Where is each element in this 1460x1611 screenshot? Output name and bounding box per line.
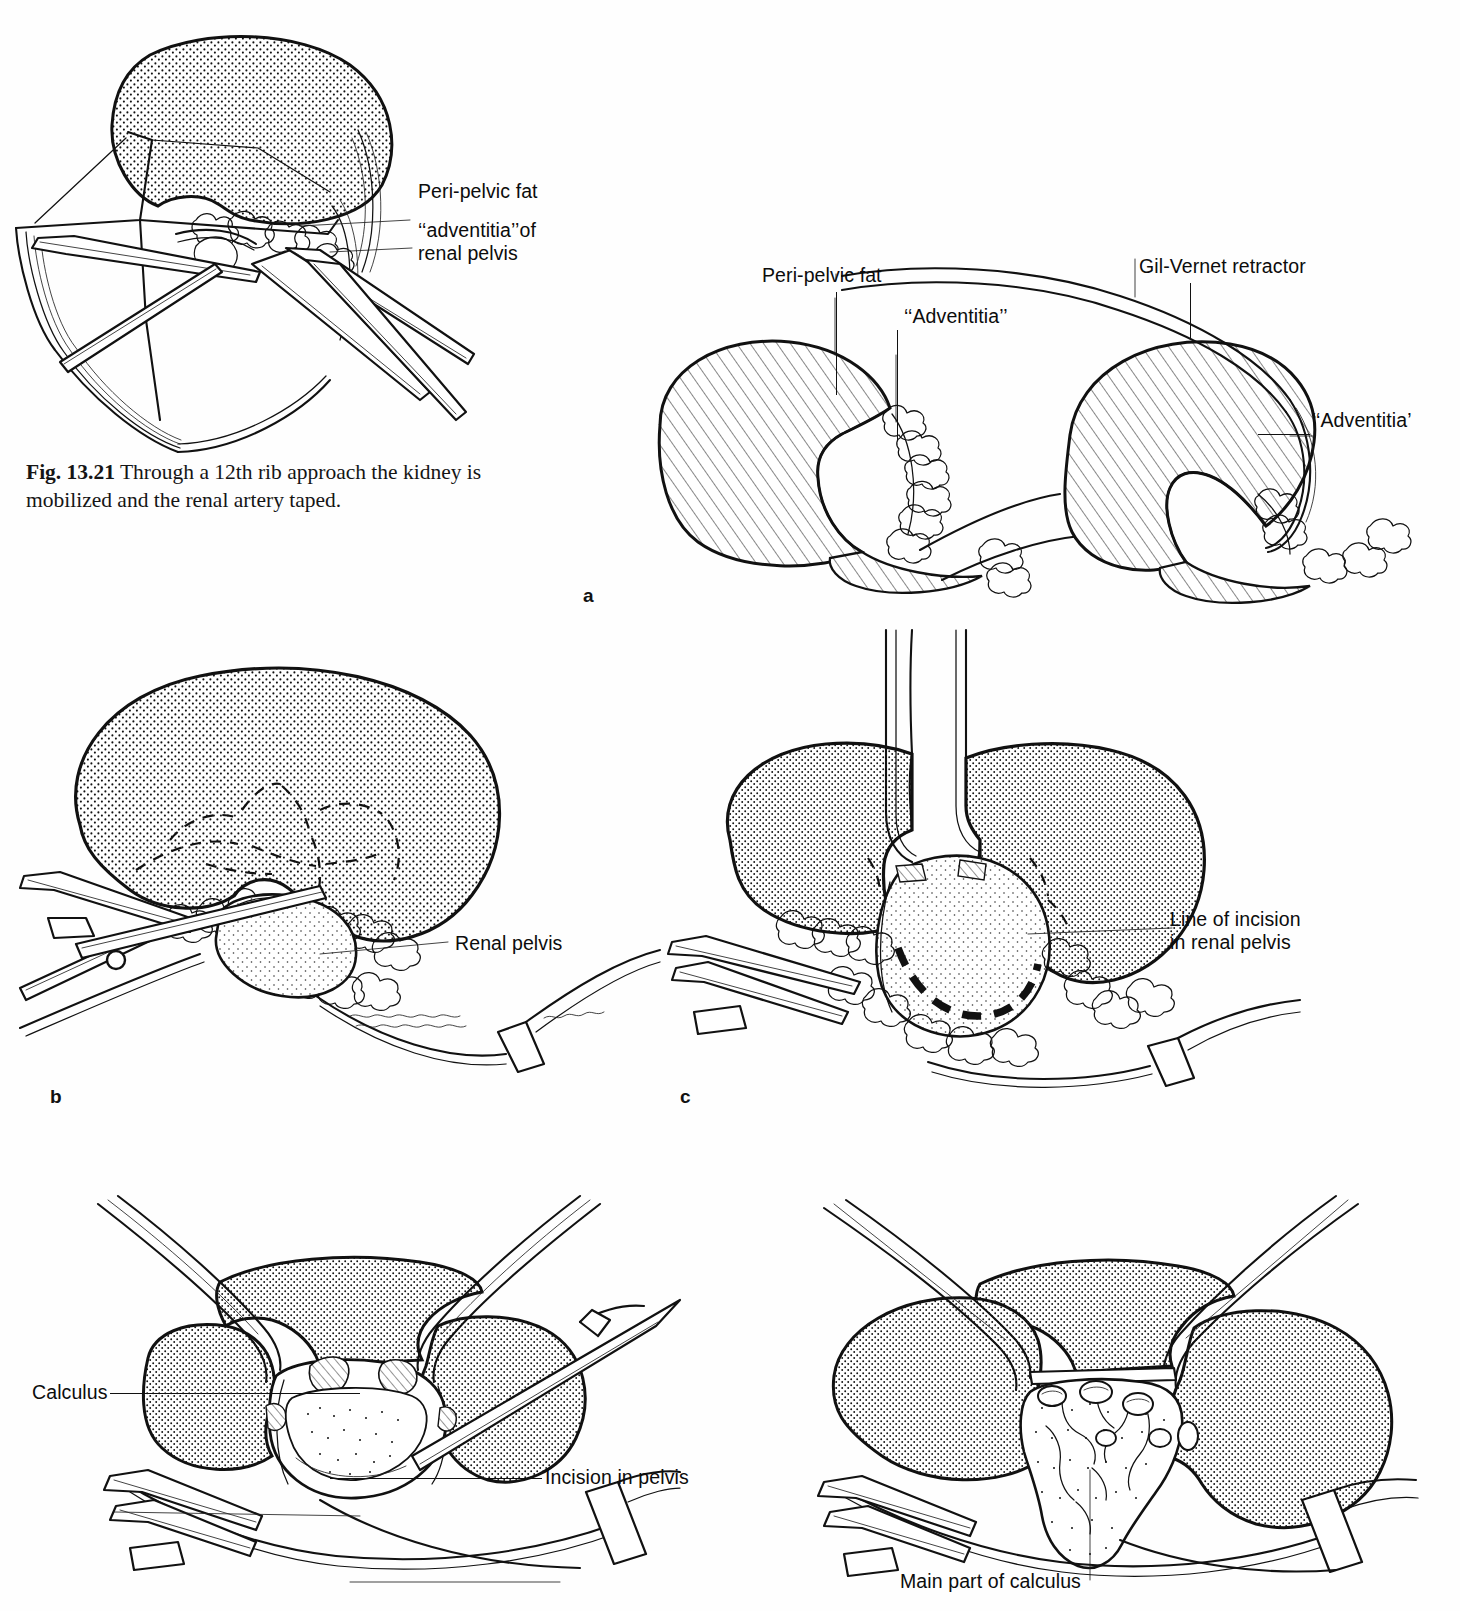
panel-letter-a: a (583, 585, 594, 607)
label-peri-pelvic-fat-a: Peri-pelvic fat (762, 264, 882, 287)
label-peri-pelvic-fat-fig1: Peri-pelvic fat (418, 180, 538, 203)
figure-caption: Fig. 13.21 Through a 12th rib approach t… (26, 458, 571, 514)
leader-adventitia-left-a (897, 330, 898, 440)
label-renal-pelvis-b: Renal pelvis (455, 932, 562, 955)
label-calculus-d: Calculus (32, 1381, 108, 1404)
panel-letter-c: c (680, 1086, 691, 1108)
label-adventitia-left-a: ‘‘Adventitia’’ (904, 305, 1008, 328)
panel-b-illustration (20, 650, 660, 1080)
leader-gil-vernet-a (1190, 283, 1191, 338)
leader-calculus-d (110, 1393, 360, 1394)
label-adventitia-of-renal-pelvis-fig1: ‘‘adventitia’’of renal pelvis (418, 219, 536, 265)
panel-d-illustration (20, 1170, 680, 1611)
illustration-page: Peri-pelvic fat ‘‘adventitia’’of renal p… (0, 0, 1460, 1611)
leader-incision-in-pelvis-d (330, 1478, 542, 1479)
label-line-of-incision-in-renal-pelvis-c: Line of incision in renal pelvis (1170, 908, 1301, 954)
leader-peri-pelvic-fat-a (836, 292, 837, 395)
label-gil-vernet-retractor-a: Gil-Vernet retractor (1139, 255, 1306, 278)
label-adventitia-right-a: ‘‘Adventitia’ (1312, 409, 1412, 432)
label-incision-in-pelvis-d: Incision in pelvis (545, 1466, 689, 1489)
leader-adventitia-right-a (1258, 434, 1310, 435)
figure-number: Fig. 13.21 (26, 460, 115, 484)
panel-e-illustration (790, 1180, 1440, 1580)
panel-c-illustration (660, 630, 1300, 1090)
panel-letter-b: b (50, 1086, 62, 1108)
label-main-part-of-calculus-e: Main part of calculus (900, 1570, 1081, 1593)
